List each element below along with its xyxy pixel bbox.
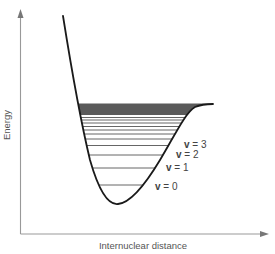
x-axis xyxy=(21,231,270,237)
level-label-v1: v = 1 xyxy=(166,162,189,173)
level-label-v0: v = 0 xyxy=(155,181,178,192)
dissociation-continuum-band xyxy=(60,104,220,116)
potential-energy-diagram xyxy=(0,0,275,254)
level-label-v2: v = 2 xyxy=(176,149,199,160)
x-axis-arrow-icon xyxy=(260,231,269,237)
x-axis-label: Internuclear distance xyxy=(99,240,187,251)
y-axis xyxy=(18,9,24,234)
y-axis-label: Energy xyxy=(1,110,12,140)
y-axis-arrow-icon xyxy=(18,9,24,18)
